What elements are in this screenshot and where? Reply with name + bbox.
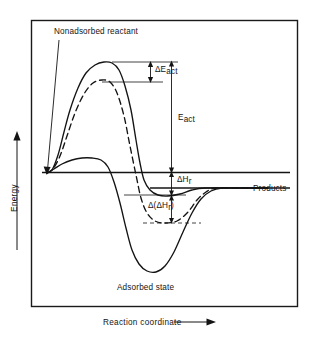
delta-e-act-sub: act	[166, 67, 178, 76]
x-axis-label: Reaction coordinate	[103, 318, 182, 327]
e-act-sub: act	[184, 115, 196, 124]
delta-h-r-main: ΔH	[177, 175, 189, 184]
delta-e-act-main: ΔE	[155, 65, 167, 74]
x-axis-group: Reaction coordinate	[103, 318, 216, 327]
energy-diagram-figure: Energy Reaction coordinate Nonadsorbed r…	[0, 0, 316, 338]
right-arrow-icon	[207, 319, 217, 326]
reaction-coordinate-energy-diagram: Energy Reaction coordinate Nonadsorbed r…	[0, 0, 316, 338]
up-arrow-icon	[13, 131, 20, 141]
adsorbed-state-label: Adsorbed state	[117, 283, 174, 292]
y-axis-group: Energy	[10, 131, 21, 250]
delta-delta-h-r-post: )	[171, 201, 174, 210]
y-axis-label: Energy	[10, 184, 19, 212]
delta-h-r-sub: r	[189, 177, 192, 186]
nonadsorbed-reactant-label: Nonadsorbed reactant	[54, 27, 139, 36]
figure-border	[32, 21, 298, 307]
delta-delta-h-r-pre: Δ(ΔH	[148, 201, 168, 210]
